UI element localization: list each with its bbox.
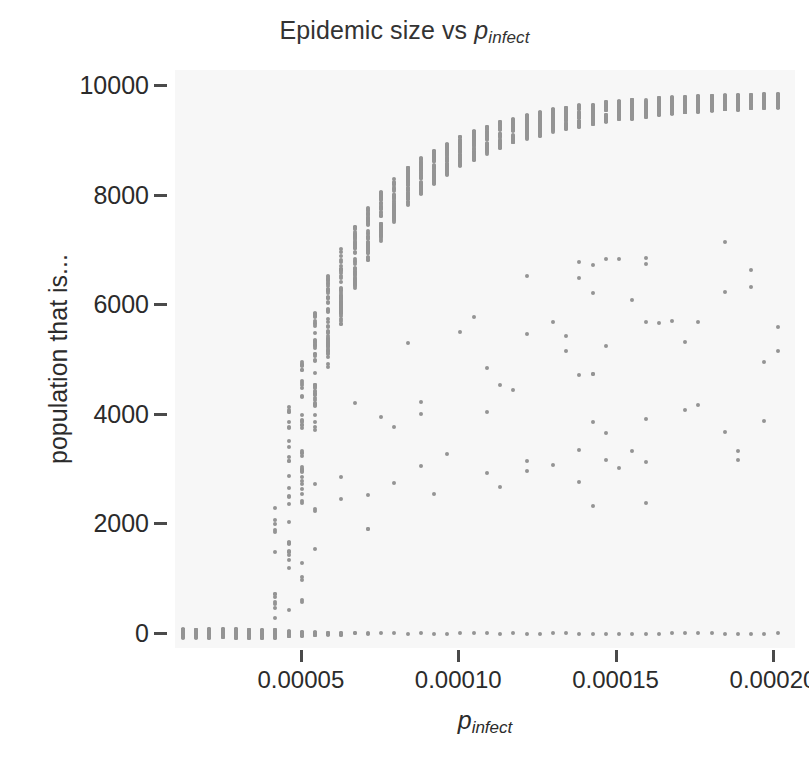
scatter-point	[273, 606, 277, 610]
scatter-point	[287, 495, 291, 499]
scatter-point	[736, 632, 740, 636]
scatter-point	[485, 145, 489, 149]
scatter-point	[353, 251, 357, 255]
scatter-point	[287, 553, 291, 557]
scatter-point	[419, 400, 423, 404]
y-axis-tick-label: 4000	[93, 400, 149, 429]
scatter-point	[683, 110, 687, 114]
scatter-point	[287, 439, 291, 443]
scatter-point	[353, 227, 357, 231]
chart-title: Epidemic size vs pinfect	[0, 16, 809, 48]
scatter-point	[313, 398, 317, 402]
scatter-point	[353, 401, 357, 405]
scatter-point	[300, 492, 304, 496]
y-axis-tick-label: 10000	[79, 71, 149, 100]
scatter-point	[287, 445, 291, 449]
scatter-point	[776, 349, 780, 353]
scatter-point	[379, 631, 383, 635]
scatter-point	[736, 104, 740, 108]
x-axis-label-variable: p	[458, 706, 472, 734]
scatter-point	[591, 263, 595, 267]
scatter-point	[313, 322, 317, 326]
scatter-point	[300, 368, 304, 372]
scatter-point	[577, 448, 581, 452]
scatter-point	[630, 298, 634, 302]
scatter-point	[472, 137, 476, 141]
scatter-point	[419, 174, 423, 178]
scatter-point	[736, 95, 740, 99]
scatter-point	[525, 131, 529, 135]
scatter-point	[670, 319, 674, 323]
scatter-point	[313, 420, 317, 424]
scatter-point	[776, 631, 780, 635]
scatter-point	[525, 274, 529, 278]
scatter-point	[234, 636, 238, 640]
scatter-point	[591, 372, 595, 376]
scatter-point	[313, 509, 317, 513]
y-axis-tick-mark	[154, 84, 167, 87]
scatter-points-layer	[175, 70, 795, 648]
scatter-point	[353, 267, 357, 271]
scatter-point	[749, 99, 753, 103]
scatter-point	[723, 240, 727, 244]
scatter-point	[273, 506, 277, 510]
scatter-point	[326, 330, 330, 334]
scatter-point	[749, 268, 753, 272]
scatter-point	[339, 254, 343, 258]
scatter-point	[538, 128, 542, 132]
scatter-point	[644, 417, 648, 421]
scatter-point	[591, 121, 595, 125]
scatter-point	[644, 104, 648, 108]
scatter-point	[313, 413, 317, 417]
scatter-point	[287, 410, 291, 414]
scatter-point	[221, 631, 225, 635]
scatter-point	[723, 430, 727, 434]
scatter-point	[353, 286, 357, 290]
scatter-point	[300, 578, 304, 582]
scatter-point	[432, 171, 436, 175]
scatter-point	[300, 475, 304, 479]
scatter-point	[300, 479, 304, 483]
scatter-point	[538, 111, 542, 115]
y-axis: 0200040006000800010000	[0, 70, 175, 648]
scatter-point	[644, 256, 648, 260]
scatter-point	[551, 463, 555, 467]
scatter-point	[683, 408, 687, 412]
scatter-point	[736, 449, 740, 453]
x-axis-label: pinfect	[175, 706, 795, 738]
x-axis-tick-mark	[615, 650, 618, 662]
scatter-point	[591, 291, 595, 295]
scatter-point	[577, 373, 581, 377]
scatter-point	[366, 258, 370, 262]
scatter-point	[604, 105, 608, 109]
scatter-point	[591, 107, 595, 111]
scatter-point	[525, 114, 529, 118]
scatter-point	[353, 246, 357, 250]
scatter-point	[657, 102, 661, 106]
scatter-point	[287, 520, 291, 524]
scatter-point	[300, 394, 304, 398]
scatter-point	[644, 115, 648, 119]
scatter-point	[538, 121, 542, 125]
scatter-point	[577, 260, 581, 264]
scatter-point	[776, 325, 780, 329]
scatter-point	[392, 425, 396, 429]
scatter-point	[366, 222, 370, 226]
scatter-point	[353, 242, 357, 246]
scatter-point	[762, 632, 766, 636]
scatter-point	[287, 459, 291, 463]
scatter-point	[604, 431, 608, 435]
scatter-point	[657, 632, 661, 636]
scatter-point	[300, 501, 304, 505]
scatter-point	[287, 558, 291, 562]
x-axis-tick-mark	[300, 650, 303, 662]
scatter-point	[723, 93, 727, 97]
scatter-point	[696, 403, 700, 407]
scatter-point	[710, 107, 714, 111]
scatter-point	[419, 464, 423, 468]
scatter-point	[644, 632, 648, 636]
scatter-point	[710, 631, 714, 635]
scatter-point	[260, 631, 264, 635]
scatter-point	[313, 331, 317, 335]
scatter-point	[525, 332, 529, 336]
